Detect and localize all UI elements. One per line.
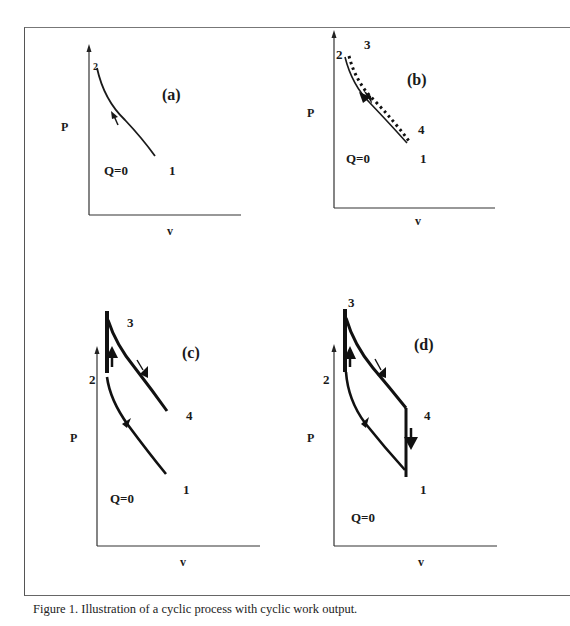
expansion-curve-dotted [349, 56, 409, 141]
state-label-1: 1 [420, 482, 427, 497]
y-axis-label: P [307, 106, 314, 120]
state-label-4: 4 [186, 408, 193, 423]
direction-arrow-icon [111, 111, 118, 125]
panel-title: (b) [407, 71, 427, 89]
q-annotation: Q=0 [351, 510, 375, 525]
x-axis-label: v [167, 224, 173, 238]
x-axis-label: v [418, 555, 424, 569]
panel-c: 3 (c) 2 4 P 1 Q=0 v [70, 311, 260, 569]
state-label-3: 3 [364, 37, 371, 52]
panel-title: (c) [182, 344, 200, 362]
state-label-2: 2 [336, 47, 343, 62]
state-label-4: 4 [424, 408, 431, 423]
compression-curve [345, 57, 407, 143]
q-annotation: Q=0 [104, 163, 128, 178]
y-axis-arrowhead-icon [332, 344, 337, 352]
panel-title: (d) [414, 336, 434, 354]
y-axis-arrowhead-icon [332, 30, 337, 38]
panel-a: 2 (a) P Q=0 1 v [61, 44, 241, 238]
compression-curve [346, 372, 405, 470]
panel-d: 3 (d) 2 4 P 1 Q=0 v [307, 295, 497, 569]
state-label-3: 3 [348, 295, 355, 310]
y-axis-arrowhead-icon [95, 346, 100, 354]
state-label-4: 4 [418, 122, 425, 137]
state-label-1: 1 [183, 482, 190, 497]
state-label-2: 2 [89, 372, 96, 387]
q-annotation: Q=0 [110, 491, 134, 506]
expansion-curve [108, 320, 167, 411]
direction-arrow-icon [137, 360, 148, 378]
state-label-3: 3 [127, 315, 134, 330]
panel-title: (a) [162, 86, 181, 104]
compression-curve [107, 377, 166, 474]
state-label-1: 1 [420, 151, 427, 166]
figure-caption: Figure 1. Illustration of a cyclic proce… [33, 602, 357, 617]
state-label-2: 2 [93, 61, 98, 72]
y-axis-label: P [61, 120, 68, 134]
panel-b: 2 3 (b) P 4 Q=0 1 v [307, 30, 495, 228]
state-label-2: 2 [323, 372, 330, 387]
x-axis-label: v [180, 555, 186, 569]
expansion-curve [346, 318, 406, 408]
x-axis-label: v [415, 214, 421, 228]
y-axis-arrowhead-icon [87, 44, 92, 52]
direction-arrow-icon [375, 359, 386, 378]
compression-curve [97, 68, 155, 156]
y-axis-label: P [70, 431, 77, 445]
y-axis-label: P [307, 431, 314, 445]
q-annotation: Q=0 [346, 151, 370, 166]
state-label-1: 1 [169, 163, 176, 178]
